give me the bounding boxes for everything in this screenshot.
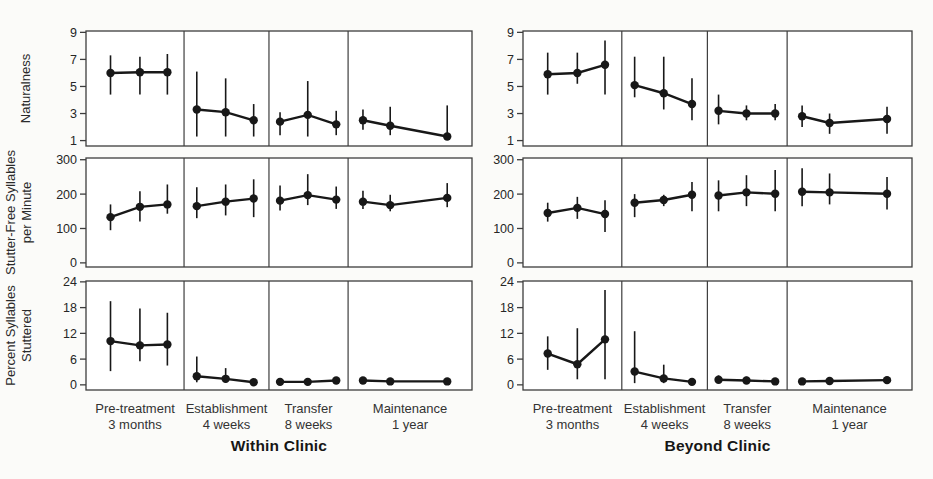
- phase-label-line1: Maintenance: [373, 401, 447, 416]
- data-point: [276, 196, 284, 204]
- y-tick-label: 0: [70, 378, 77, 392]
- y-tick-label: 24: [63, 275, 77, 289]
- data-point: [630, 81, 638, 89]
- data-point: [163, 340, 171, 348]
- data-point: [386, 201, 394, 209]
- phase-label-line2: 4 weeks: [203, 417, 251, 432]
- data-point: [742, 109, 750, 117]
- data-point: [106, 69, 114, 77]
- data-point: [276, 378, 284, 386]
- panel-row: 13579: [507, 26, 912, 148]
- y-tick-label: 18: [500, 301, 514, 315]
- panel-frame: [86, 158, 472, 267]
- data-point: [544, 70, 552, 78]
- chart-canvas: 13579Naturalness0100200300Stutter-Free S…: [0, 0, 933, 479]
- data-point: [386, 122, 394, 130]
- data-point: [825, 119, 833, 127]
- data-point: [714, 191, 722, 199]
- y-tick-label: 1: [507, 134, 514, 148]
- phase-label-line2: 8 weeks: [285, 417, 333, 432]
- data-point: [771, 377, 779, 385]
- panel-row: 0100200300: [493, 153, 912, 270]
- phase-label-line2: 8 weeks: [723, 417, 771, 432]
- data-point: [304, 191, 312, 199]
- panel-row: 0100200300Stutter-Free Syllablesper Minu…: [3, 150, 472, 275]
- phase-label-line2: 1 year: [392, 417, 429, 432]
- beyond-clinic-title: Beyond Clinic: [523, 437, 912, 455]
- data-point: [106, 337, 114, 345]
- data-point: [883, 376, 891, 384]
- y-tick-label: 7: [507, 53, 514, 67]
- data-point: [798, 377, 806, 385]
- phase-label-line2: 3 months: [546, 417, 600, 432]
- y-tick-label: 9: [507, 26, 514, 40]
- data-point: [714, 107, 722, 115]
- y-tick-label: 12: [63, 327, 77, 341]
- panel-frame: [523, 281, 912, 390]
- data-point: [660, 89, 668, 97]
- data-point: [688, 191, 696, 199]
- data-point: [136, 203, 144, 211]
- phase-label-line1: Pre-treatment: [95, 401, 175, 416]
- data-point: [443, 194, 451, 202]
- data-point: [136, 341, 144, 349]
- series-line: [363, 381, 447, 382]
- y-tick-label: 200: [56, 188, 77, 202]
- phase-label-line1: Establishment: [186, 401, 268, 416]
- data-point: [332, 376, 340, 384]
- data-point: [883, 190, 891, 198]
- y-tick-label: 5: [507, 80, 514, 94]
- data-point: [660, 196, 668, 204]
- figure-page: 13579Naturalness0100200300Stutter-Free S…: [0, 0, 933, 479]
- y-tick-label: 100: [56, 222, 77, 236]
- phase-label-line2: 1 year: [831, 417, 868, 432]
- data-point: [193, 105, 201, 113]
- data-point: [630, 367, 638, 375]
- y-tick-label: 18: [63, 301, 77, 315]
- data-point: [359, 116, 367, 124]
- y-tick-label: 6: [70, 353, 77, 367]
- data-point: [443, 377, 451, 385]
- y-axis-label: Naturalness: [18, 53, 33, 123]
- data-point: [249, 116, 257, 124]
- phase-label-line1: Transfer: [285, 401, 334, 416]
- y-axis-label: Percent Syllables: [3, 285, 18, 386]
- y-tick-label: 7: [70, 53, 77, 67]
- phase-label-line1: Establishment: [624, 401, 706, 416]
- data-point: [332, 120, 340, 128]
- data-point: [573, 360, 581, 368]
- y-tick-label: 24: [500, 275, 514, 289]
- data-point: [883, 115, 891, 123]
- data-point: [332, 195, 340, 203]
- y-axis-label: per Minute: [19, 182, 34, 243]
- panel-frame: [86, 31, 472, 146]
- data-point: [742, 376, 750, 384]
- data-point: [304, 378, 312, 386]
- data-point: [359, 197, 367, 205]
- y-tick-label: 12: [500, 327, 514, 341]
- data-point: [443, 132, 451, 140]
- data-point: [193, 372, 201, 380]
- data-point: [573, 204, 581, 212]
- data-point: [304, 111, 312, 119]
- data-point: [136, 68, 144, 76]
- data-point: [276, 117, 284, 125]
- data-point: [688, 378, 696, 386]
- series-line: [802, 380, 887, 381]
- y-tick-label: 9: [70, 26, 77, 40]
- y-tick-label: 3: [70, 107, 77, 121]
- y-tick-label: 100: [493, 222, 514, 236]
- y-tick-label: 300: [493, 153, 514, 167]
- data-point: [221, 197, 229, 205]
- phase-label-line1: Pre-treatment: [533, 401, 613, 416]
- data-point: [798, 112, 806, 120]
- data-point: [825, 188, 833, 196]
- data-point: [386, 377, 394, 385]
- data-point: [630, 199, 638, 207]
- data-point: [106, 213, 114, 221]
- data-point: [163, 200, 171, 208]
- beyond-clinic-figure: 13579010020030006121824Pre-treatment3 mo…: [493, 26, 912, 432]
- data-point: [601, 210, 609, 218]
- data-point: [249, 194, 257, 202]
- panel-frame: [86, 281, 472, 390]
